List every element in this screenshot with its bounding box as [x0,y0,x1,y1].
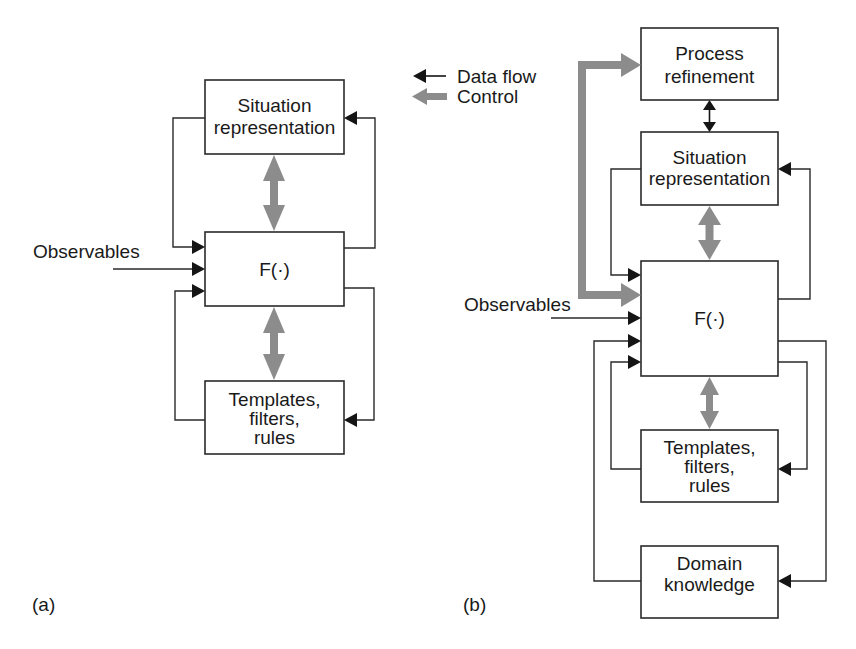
data-arrow-process-situation [703,100,716,132]
data-loop-f-to-situation-b [778,162,810,299]
situation-label-line1: Situation [238,95,312,116]
data-loop-templates-to-f-b [611,355,641,469]
legend-data-flow-label: Data flow [457,66,536,87]
diagram-b: Process refinement Situation representat… [463,28,826,618]
data-loop-domain-to-f [594,334,641,581]
templates-box-a: Templates, filters, rules [205,381,344,454]
process-label-line1: Process [675,43,744,64]
templates-box-b: Templates, filters, rules [641,430,778,502]
templates-label-line1: Templates, [229,389,321,410]
situation-representation-box-b: Situation representation [641,132,778,205]
templates-label-line3: rules [254,427,295,448]
domain-label-line1: Domain [677,553,742,574]
legend-control-icon [412,88,447,105]
observables-arrow-a [113,262,205,276]
domain-knowledge-box: Domain knowledge [641,546,778,618]
diagram-a: Situation representation F(·) Templates,… [32,80,375,615]
function-box-b: F(·) [641,261,778,376]
process-refinement-box: Process refinement [641,28,778,100]
situation-label-line2: representation [649,168,770,189]
process-label-line2: refinement [665,66,755,87]
legend-data-flow-icon [413,69,446,83]
control-arrow-situation-f-a [263,155,285,231]
caption-a: (a) [32,594,55,615]
function-label: F(·) [694,308,725,329]
legend-control-label: Control [457,86,518,107]
data-loop-templates-to-f-a [175,284,205,420]
domain-label-line2: knowledge [664,574,755,595]
function-box-a: F(·) [205,232,344,306]
control-arrow-f-templates-a [263,307,285,380]
templates-label-line2: filters, [684,456,735,477]
situation-label-line1: Situation [673,147,747,168]
observables-label-a: Observables [33,241,140,262]
data-loop-situation-to-f-b [611,169,641,282]
templates-label-line1: Templates, [664,437,756,458]
caption-b: (b) [463,594,486,615]
templates-label-line3: rules [689,475,730,496]
data-loop-f-to-templates-b [778,362,807,476]
observables-label-b: Observables [464,294,571,315]
control-arrow-situation-f-b [698,206,721,260]
data-loop-f-to-situation-a [344,111,375,248]
situation-representation-box-a: Situation representation [205,80,344,154]
control-arrow-f-templates-b [700,377,719,429]
legend: Data flow Control [412,66,536,107]
situation-label-line2: representation [214,117,335,138]
templates-label-line2: filters, [249,408,300,429]
function-label: F(·) [259,259,290,280]
figure-canvas: Situation representation F(·) Templates,… [0,0,856,649]
data-loop-f-to-templates-a [344,288,374,427]
data-loop-situation-to-f-a [173,118,205,254]
data-loop-f-to-domain [778,341,826,588]
